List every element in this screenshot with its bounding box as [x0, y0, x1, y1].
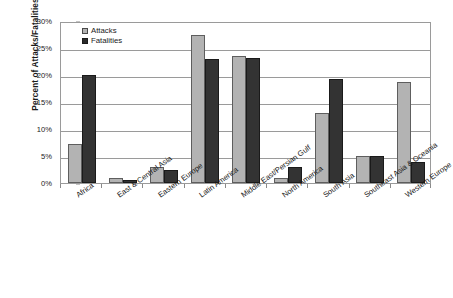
- bar-attacks[interactable]: [68, 144, 82, 183]
- x-axis-tick-mark: [390, 184, 391, 188]
- x-axis-tick-mark: [266, 184, 267, 188]
- x-axis-tick-mark: [225, 184, 226, 188]
- y-axis-tick-label: 15%: [37, 99, 52, 107]
- y-axis-tick-label: 20%: [37, 72, 52, 80]
- bar-group: [350, 23, 391, 183]
- legend-item: Fatalities: [82, 37, 122, 45]
- bar-group: [102, 23, 143, 183]
- y-axis-tick-label: 5%: [41, 153, 52, 161]
- bar-fatalities[interactable]: [246, 58, 260, 183]
- y-axis-tick-label: 10%: [37, 126, 52, 134]
- bar-fatalities[interactable]: [82, 75, 96, 183]
- x-axis-tick-mark: [349, 184, 350, 188]
- bar-attacks[interactable]: [232, 56, 246, 183]
- x-axis-tick-mark: [60, 184, 61, 188]
- legend-item: Attacks: [82, 27, 122, 35]
- x-axis-tick-mark: [184, 184, 185, 188]
- x-axis-tick-mark: [142, 184, 143, 188]
- bar-fatalities[interactable]: [205, 59, 219, 183]
- legend-swatch-icon: [82, 28, 88, 34]
- legend: AttacksFatalities: [79, 25, 126, 47]
- bar-group: [308, 23, 349, 183]
- bar-fatalities[interactable]: [329, 79, 343, 183]
- y-axis-tick-labels: 30%25%20%15%10%5%0%: [20, 0, 56, 298]
- x-axis-tick-mark: [430, 184, 431, 188]
- bar-attacks[interactable]: [356, 156, 370, 183]
- bar-attacks[interactable]: [109, 178, 123, 183]
- bar-group: [61, 23, 102, 183]
- bars-layer: [61, 23, 430, 183]
- y-axis-tick-label: 30%: [37, 18, 52, 26]
- y-axis-tick-label: 25%: [37, 45, 52, 53]
- bar-attacks[interactable]: [274, 178, 288, 183]
- legend-swatch-icon: [82, 38, 88, 44]
- bar-group: [185, 23, 226, 183]
- x-axis-tick-mark: [101, 184, 102, 188]
- legend-label: Fatalities: [91, 37, 122, 45]
- x-axis-tick-mark: [307, 184, 308, 188]
- legend-label: Attacks: [91, 27, 117, 35]
- bar-group: [226, 23, 267, 183]
- y-axis-tick-label: 0%: [41, 180, 52, 188]
